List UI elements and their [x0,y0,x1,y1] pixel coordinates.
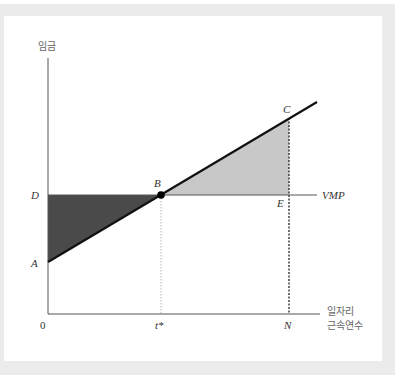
label-t-star: t* [155,319,164,331]
label-d: D [30,189,39,201]
label-vmp: VMP [322,189,345,201]
point-b-marker [157,191,165,199]
label-e: E [276,197,284,209]
label-origin: 0 [40,319,46,331]
chart: 임금 D A B C E VMP 0 t* N 일자리 근속연수 [0,0,408,381]
x-axis-label-line1: 일자리 [327,306,354,317]
x-axis-label-line2: 근속연수 [327,320,363,331]
label-b: B [154,177,161,189]
y-axis-label: 임금 [38,40,56,52]
label-n: N [283,319,292,331]
label-a: A [30,257,38,269]
label-c: C [283,103,291,115]
